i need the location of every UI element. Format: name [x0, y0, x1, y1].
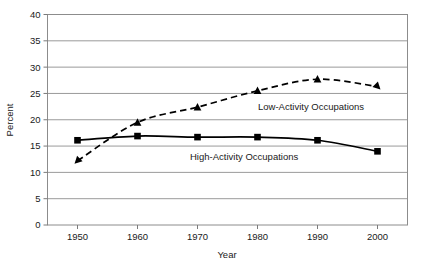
y-tick-label-40: 40	[30, 9, 41, 20]
y-tick-label-20: 20	[30, 114, 41, 125]
x-tick-label-1950: 1950	[67, 231, 88, 242]
x-tick-label-1960: 1960	[127, 231, 148, 242]
data-point-marker	[134, 133, 141, 140]
x-tick-label-2000: 2000	[367, 231, 388, 242]
y-tick-label-10: 10	[30, 167, 41, 178]
y-axis-title: Percent	[4, 103, 15, 136]
x-tick-label-1980: 1980	[247, 231, 268, 242]
x-axis-title: Year	[217, 249, 236, 260]
y-tick-label-5: 5	[35, 193, 40, 204]
y-tick-label-35: 35	[30, 35, 41, 46]
data-point-marker	[254, 134, 261, 141]
y-tick-label-30: 30	[30, 62, 41, 73]
series-annotation-low-activity: Low-Activity Occupations	[258, 101, 364, 112]
x-tick-label-1990: 1990	[307, 231, 328, 242]
data-point-marker	[314, 137, 321, 144]
chart-background	[0, 0, 423, 268]
data-point-marker	[374, 148, 381, 155]
y-tick-label-0: 0	[35, 219, 40, 230]
data-point-marker	[74, 137, 81, 144]
y-tick-label-15: 15	[30, 140, 41, 151]
chart-container: 0510152025303540 19501960197019801990200…	[0, 0, 423, 268]
data-point-marker	[194, 134, 201, 141]
series-annotation-high-activity: High-Activity Occupations	[190, 151, 298, 162]
line-chart: 0510152025303540 19501960197019801990200…	[0, 0, 423, 268]
x-tick-label-1970: 1970	[187, 231, 208, 242]
y-tick-label-25: 25	[30, 88, 41, 99]
